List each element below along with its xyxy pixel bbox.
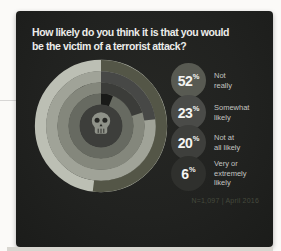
legend-value: 23 xyxy=(178,105,193,121)
legend-unit: % xyxy=(193,134,200,143)
legend-label: Not really xyxy=(214,71,232,91)
question-title: How likely do you think it is that you w… xyxy=(32,26,266,53)
legend-label: Very or extremely likely xyxy=(214,159,247,188)
donut-center xyxy=(80,105,123,148)
legend-swatch: 20% xyxy=(171,125,206,160)
legend-item: 20% Not at all likely xyxy=(171,125,240,160)
legend-unit: % xyxy=(189,165,196,174)
legend-swatch: 52% xyxy=(171,63,206,98)
legend-label: Somewhat likely xyxy=(214,103,249,123)
legend-label: Not at all likely xyxy=(214,133,240,153)
survey-card: How likely do you think it is that you w… xyxy=(16,11,273,247)
footnote: N=1,097 | April 2016 xyxy=(191,197,259,204)
screenshot-root: How likely do you think it is that you w… xyxy=(0,0,281,251)
legend-value: 20 xyxy=(178,135,193,151)
donut-chart xyxy=(33,58,169,194)
legend-value: 52 xyxy=(178,73,193,89)
legend-item: 52% Not really xyxy=(171,63,232,98)
legend-value: 6 xyxy=(181,166,188,182)
legend-swatch: 6% xyxy=(171,156,206,191)
legend-item: 6% Very or extremely likely xyxy=(171,156,247,191)
legend-unit: % xyxy=(193,72,200,81)
legend-unit: % xyxy=(193,104,200,113)
page-edge xyxy=(7,247,273,251)
